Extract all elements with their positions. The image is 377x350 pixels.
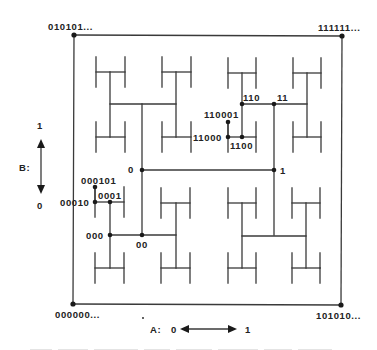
node-label-000: 000: [86, 231, 104, 241]
axis-a-left-label: 0: [171, 325, 177, 335]
h-tree-diagram: [0, 0, 377, 350]
node-label-1100: 1100: [230, 141, 253, 151]
node-label-000101: 000101: [81, 176, 116, 186]
arrow-down-icon: [37, 185, 45, 194]
arrow-up-icon: [37, 139, 45, 148]
faded-caption: [30, 340, 350, 348]
corner-label-bottom-left: 000000...: [55, 310, 100, 320]
arrow-left-icon: [180, 325, 189, 333]
node-label-110: 110: [243, 93, 260, 103]
node-label-11000: 11000: [193, 133, 222, 143]
node-label-110001: 110001: [204, 110, 239, 120]
node-label-1: 1: [280, 166, 286, 176]
axis-a-right-label: 1: [245, 325, 251, 335]
axis-b-top-label: 1: [37, 121, 43, 131]
corner-label-top-left: 010101...: [48, 22, 93, 32]
corner-label-bottom-right: 101010...: [316, 311, 361, 321]
arrow-right-icon: [228, 325, 237, 333]
axis-a-label: A:: [150, 325, 161, 335]
node-label-0001: 0001: [98, 191, 122, 201]
node-label-11: 11: [277, 93, 288, 103]
corner-label-top-right: 111111...: [318, 23, 360, 33]
node-label-0: 0: [128, 165, 134, 175]
node-label-00: 00: [136, 240, 148, 250]
axis-b-label: B:: [19, 163, 30, 173]
axis-b-bottom-label: 0: [37, 201, 43, 211]
node-label-00010: 00010: [60, 198, 89, 208]
